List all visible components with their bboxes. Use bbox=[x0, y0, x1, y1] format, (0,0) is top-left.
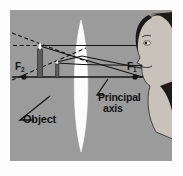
focal-point-right bbox=[132, 74, 137, 79]
virtual-image-candle bbox=[38, 42, 43, 77]
object-label: Object bbox=[23, 114, 56, 125]
principal-axis-label-line1: Principal bbox=[98, 92, 141, 103]
focal-point-left bbox=[21, 74, 26, 79]
focal-point-left-label: F2 bbox=[15, 62, 24, 72]
focal-point-right-label: F1 bbox=[127, 62, 136, 72]
ray-diagram-figure: F2 F1 Object Principal axis bbox=[0, 0, 183, 176]
principal-axis-label-line2: axis bbox=[103, 103, 123, 114]
diagram-canvas bbox=[0, 0, 183, 176]
biconvex-lens bbox=[74, 20, 88, 152]
